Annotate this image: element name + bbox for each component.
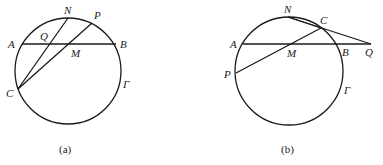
label-p-a: P (93, 9, 101, 21)
label-p-b: P (223, 68, 231, 80)
label-m-a: M (70, 47, 81, 59)
caption-a: (a) (59, 143, 72, 156)
label-m-b: M (286, 47, 297, 59)
label-a-a: A (7, 38, 15, 50)
label-q-b: Q (365, 46, 373, 58)
label-b-a: B (120, 38, 127, 50)
label-a-b: A (229, 38, 237, 50)
figure-b: A B N C Q M P Γ (b) (223, 3, 373, 156)
figure-a: A B N P Q M C Γ (a) (6, 4, 130, 156)
label-c-a: C (6, 87, 14, 99)
geometry-diagram: A B N P Q M C Γ (a) A B N C Q M P Γ (b) (0, 0, 383, 165)
chord-cp-a (18, 23, 92, 89)
label-n-a: N (63, 4, 72, 16)
label-q-a: Q (40, 30, 48, 42)
label-gamma-a: Γ (122, 78, 130, 90)
label-n-b: N (283, 3, 292, 15)
circle-gamma-b (235, 17, 343, 125)
caption-b: (b) (281, 143, 294, 156)
label-b-b: B (342, 46, 349, 58)
label-c-b: C (320, 14, 328, 26)
chord-cn-a (18, 18, 68, 89)
label-gamma-b: Γ (343, 84, 351, 96)
